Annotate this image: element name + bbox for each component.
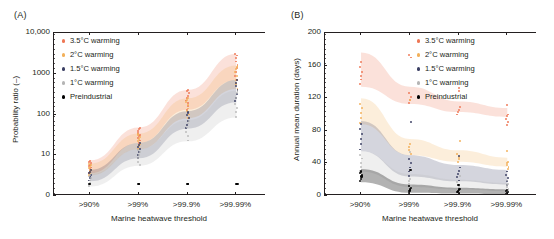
y-minor-tick	[53, 159, 55, 160]
data-point	[186, 99, 188, 101]
data-point	[409, 99, 411, 101]
x-tick-mark	[89, 192, 90, 195]
y-minor-tick	[324, 102, 326, 103]
x-tick-label: >99.99%	[476, 200, 536, 209]
y-minor-tick	[324, 183, 326, 184]
legend-item-0: 3.5°C warming	[62, 34, 120, 48]
y-tick-label: 200	[278, 27, 321, 36]
data-point	[137, 146, 139, 148]
legend-swatch-icon	[62, 67, 65, 70]
legend-label: 2°C warming	[425, 51, 469, 59]
data-point	[360, 178, 362, 180]
y-minor-tick	[53, 188, 55, 189]
data-point	[457, 161, 459, 163]
y-tick-mark	[53, 32, 56, 33]
data-point	[506, 150, 508, 152]
legend-swatch-icon	[417, 39, 420, 42]
legend-swatch-icon	[417, 95, 420, 98]
y-minor-tick	[53, 154, 55, 155]
panel-a-legend: 3.5°C warming2°C warming1.5°C warming1°C…	[62, 34, 120, 104]
panel-b-x-axis-label: Marine heatwave threshold	[324, 214, 536, 223]
x-tick-mark-top	[409, 32, 410, 35]
legend-item-3: 1°C warming	[417, 76, 475, 90]
y-minor-tick	[53, 58, 55, 59]
y-tick-mark	[53, 195, 56, 196]
band-3	[90, 91, 236, 187]
data-point	[409, 151, 411, 153]
legend-swatch-icon	[62, 39, 65, 42]
data-point	[459, 175, 461, 177]
legend-label: Preindustrial	[425, 93, 467, 101]
data-point	[507, 183, 509, 185]
y-minor-tick	[53, 82, 55, 83]
data-point	[507, 121, 509, 123]
figure-root: (A) Probability ratio (–) 010100100010,0…	[0, 0, 554, 239]
data-point	[188, 120, 190, 122]
data-point	[459, 188, 461, 190]
data-point	[90, 169, 92, 171]
data-point	[137, 161, 139, 163]
legend-label: 1°C warming	[70, 79, 114, 87]
y-minor-tick	[53, 63, 55, 64]
data-point	[88, 163, 90, 165]
y-minor-tick	[324, 92, 326, 93]
data-point	[360, 117, 362, 119]
data-point	[236, 75, 238, 77]
data-point	[505, 118, 507, 120]
y-minor-tick	[324, 169, 326, 170]
panel-b-label: (B)	[291, 10, 304, 20]
data-point	[410, 121, 412, 123]
data-point-preindustrial	[235, 183, 237, 185]
legend-swatch-icon	[417, 53, 420, 56]
y-minor-tick	[324, 97, 326, 98]
y-minor-tick	[53, 49, 55, 50]
panel-a-x-axis-label: Marine heatwave threshold	[53, 214, 265, 223]
y-tick-label: 120	[278, 92, 321, 101]
legend-item-2: 1.5°C warming	[62, 62, 120, 76]
data-point-preindustrial	[138, 183, 140, 185]
y-minor-tick	[53, 111, 55, 112]
data-point	[236, 107, 238, 109]
legend-label: 1.5°C warming	[70, 65, 120, 73]
y-tick-label: 10	[7, 149, 50, 158]
y-minor-tick	[53, 145, 55, 146]
legend-item-1: 2°C warming	[62, 48, 120, 62]
legend-swatch-icon	[62, 95, 65, 98]
data-point	[507, 168, 509, 170]
legend-label: 1°C warming	[425, 79, 469, 87]
y-minor-tick	[324, 78, 326, 79]
y-minor-tick	[324, 68, 326, 69]
data-point	[410, 187, 412, 189]
panel-a-label: (A)	[14, 10, 27, 20]
y-tick-mark	[324, 65, 327, 66]
y-minor-tick	[53, 116, 55, 117]
data-point	[458, 158, 460, 160]
y-minor-tick	[324, 63, 326, 64]
data-point	[360, 143, 362, 145]
data-point	[507, 161, 509, 163]
x-tick-mark	[138, 192, 139, 195]
y-minor-tick	[53, 183, 55, 184]
legend-label: 3.5°C warming	[425, 37, 475, 45]
y-tick-label: 0	[278, 190, 321, 199]
y-minor-tick	[324, 106, 326, 107]
y-minor-tick	[53, 173, 55, 174]
legend-swatch-icon	[417, 67, 420, 70]
y-minor-tick	[53, 106, 55, 107]
data-point	[89, 160, 91, 162]
x-tick-mark	[360, 192, 361, 195]
data-point	[89, 166, 91, 168]
y-tick-label: 1000	[7, 68, 50, 77]
panel-b-legend: 3.5°C warming2°C warming1.5°C warming1°C…	[417, 34, 475, 104]
x-tick-mark	[187, 192, 188, 195]
y-minor-tick	[324, 145, 326, 146]
data-point	[235, 68, 237, 70]
y-minor-tick	[324, 54, 326, 55]
x-tick-mark-top	[235, 32, 236, 35]
data-point	[137, 149, 139, 151]
y-tick-label: 0	[7, 190, 50, 199]
y-minor-tick	[53, 140, 55, 141]
legend-item-3: 1°C warming	[62, 76, 120, 90]
y-tick-label: 80	[278, 125, 321, 134]
y-minor-tick	[53, 130, 55, 131]
